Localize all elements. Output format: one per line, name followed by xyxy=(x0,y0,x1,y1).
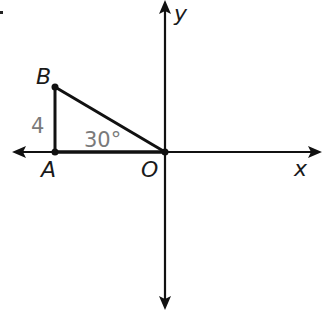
x-axis-label: x xyxy=(293,156,308,181)
angle-O-measure: 30° xyxy=(84,128,121,152)
point-B-label: B xyxy=(36,64,51,89)
point-O xyxy=(162,149,169,156)
coordinate-plane: y x B A O 4 30° xyxy=(0,0,327,312)
side-AB-length: 4 xyxy=(31,114,44,138)
y-axis-label: y xyxy=(173,1,188,26)
point-A-label: A xyxy=(39,157,56,182)
point-B xyxy=(52,84,59,91)
stray-dot xyxy=(0,11,3,14)
diagram-canvas: y x B A O 4 30° xyxy=(0,0,327,312)
origin-label: O xyxy=(141,157,158,182)
point-A xyxy=(52,149,59,156)
